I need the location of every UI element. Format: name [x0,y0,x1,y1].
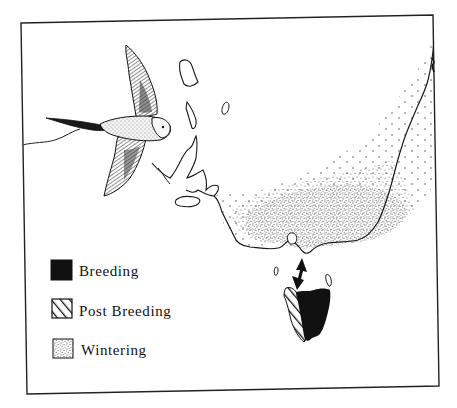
legend-item-breeding: Breeding [51,260,139,280]
breeding-swatch [51,260,72,280]
legend-label-wintering: Wintering [81,342,147,358]
port-phillip-bay [287,233,296,244]
king-island [274,267,278,275]
post-breeding-swatch [52,299,72,318]
distribution-map: Breeding Post Breeding Wintering [0,0,457,408]
legend-item-wintering: Wintering [53,339,147,358]
wintering-swatch [53,339,73,358]
legend-label-breeding: Breeding [79,263,139,279]
legend-label-post-breeding: Post Breeding [79,303,171,319]
kangaroo-island [175,196,200,206]
